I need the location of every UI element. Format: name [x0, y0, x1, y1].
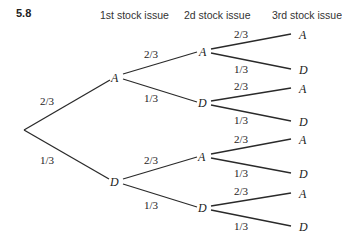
leaf-5-A: A [298, 133, 307, 147]
node-l2-A1: A [198, 45, 207, 59]
edge-D-A [123, 157, 197, 179]
edge-D1-D [211, 105, 291, 121]
prob-D2-A: 2/3 [234, 185, 249, 197]
node-l2-D2: D [197, 201, 207, 215]
prob-D-D: 1/3 [144, 199, 159, 211]
leaf-1-A: A [298, 28, 307, 42]
node-l2-D1: D [197, 96, 207, 110]
node-l1-D: D [109, 175, 119, 189]
edge-D-D [123, 184, 197, 207]
edge-A-A [123, 52, 197, 74]
leaf-4-D: D [298, 115, 308, 129]
prob-D2-D: 1/3 [234, 220, 249, 232]
edge-A-D [123, 79, 197, 102]
leaf-3-A: A [298, 82, 307, 96]
leaf-6-D: D [298, 167, 308, 181]
leaf-2-D: D [298, 63, 308, 77]
prob-A-A: 2/3 [144, 48, 159, 60]
prob-root-A: 2/3 [40, 95, 55, 107]
edge-A2-D [211, 158, 291, 173]
prob-A2-D: 1/3 [234, 167, 249, 179]
prob-root-D: 1/3 [40, 154, 55, 166]
edge-A1-A [211, 34, 291, 49]
edge-root-D [24, 130, 109, 179]
edge-D2-D [211, 210, 291, 226]
edge-D1-A [211, 88, 291, 101]
leaf-8-D: D [298, 220, 308, 234]
edge-A1-D [211, 53, 291, 69]
prob-A1-A: 2/3 [234, 28, 249, 40]
edge-root-A [24, 80, 110, 130]
edge-D2-A [211, 193, 291, 206]
leaf-7-A: A [298, 187, 307, 201]
prob-D1-A: 2/3 [234, 80, 249, 92]
prob-A-D: 1/3 [144, 92, 159, 104]
node-l2-A2: A [197, 150, 206, 164]
prob-A2-A: 2/3 [234, 133, 249, 145]
prob-D1-D: 1/3 [234, 114, 249, 126]
prob-D-A: 2/3 [144, 154, 159, 166]
edge-A2-A [211, 139, 291, 154]
node-l1-A: A [110, 71, 119, 85]
prob-A1-D: 1/3 [234, 63, 249, 75]
